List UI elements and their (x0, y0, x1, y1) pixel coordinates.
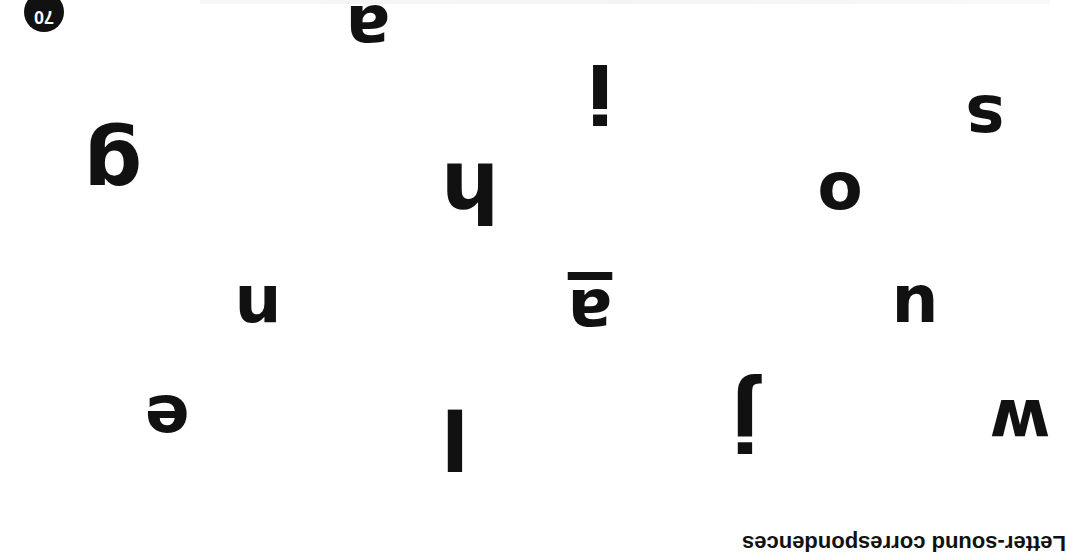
letter-h: h (441, 151, 499, 233)
letter-w: w (990, 389, 1051, 455)
letter-a: a (346, 0, 391, 61)
page-number: 70 (34, 6, 54, 27)
letter-l: l (441, 397, 469, 479)
letter-g: g (84, 127, 143, 209)
letter-j: j (731, 379, 759, 461)
letter-i: i (586, 52, 613, 132)
page-number-badge: 70 (24, 0, 64, 32)
letter-e: e (145, 385, 190, 451)
letter-a-underlined: a (568, 279, 613, 345)
letter-s: s (965, 85, 1004, 151)
letter-u: u (892, 275, 939, 341)
page-caption: Letter-sound correspondences (742, 530, 1066, 556)
letter-n: n (235, 275, 282, 341)
show-through-text (200, 0, 1050, 4)
letter-o: o (817, 162, 862, 228)
